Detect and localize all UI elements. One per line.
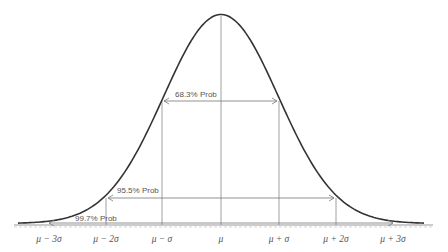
tick-mu-plus-2sigma: μ + 2σ (322, 234, 349, 244)
interval-95-label: 95.5% Prob (117, 186, 159, 195)
tick-mu-plus-3sigma: μ + 3σ (379, 234, 406, 244)
tick-mu-minus-2sigma: μ − 2σ (92, 234, 119, 244)
tick-mu-plus-sigma: μ + σ (268, 234, 290, 244)
tick-mu-minus-3sigma: μ − 3σ (35, 234, 62, 244)
interval-68-label: 68.3% Prob (175, 90, 217, 99)
tick-mu-minus-sigma: μ − σ (151, 234, 173, 244)
normal-distribution-diagram: 68.3% Prob 95.5% Prob 99.7% Prob μ − 3σ … (0, 0, 448, 252)
tick-mu: μ (218, 234, 224, 244)
interval-99-label: 99.7% Prob (75, 214, 117, 223)
